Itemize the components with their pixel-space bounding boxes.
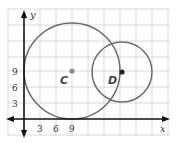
x-axis-left-arrow-icon xyxy=(6,116,14,122)
y-axis-label: y xyxy=(29,9,36,20)
y-tick-6: 6 xyxy=(12,83,18,93)
y-tick-3: 3 xyxy=(12,99,18,109)
x-axis-label: x xyxy=(160,123,166,134)
x-tick-9: 9 xyxy=(69,124,75,134)
center-label-c: C xyxy=(60,74,68,87)
y-tick-9: 9 xyxy=(12,67,18,77)
x-tick-3: 3 xyxy=(37,124,43,134)
grid xyxy=(8,9,170,136)
center-point-d xyxy=(119,69,124,74)
x-axis-right-arrow-icon xyxy=(162,116,170,122)
coordinate-plane: y x 3 6 9 9 6 3 C D xyxy=(0,0,181,143)
x-tick-6: 6 xyxy=(53,124,59,134)
center-label-d: D xyxy=(108,74,117,87)
center-point-c xyxy=(69,68,74,73)
y-axis-up-arrow-icon xyxy=(21,10,27,18)
y-axis-down-arrow-icon xyxy=(21,130,27,138)
